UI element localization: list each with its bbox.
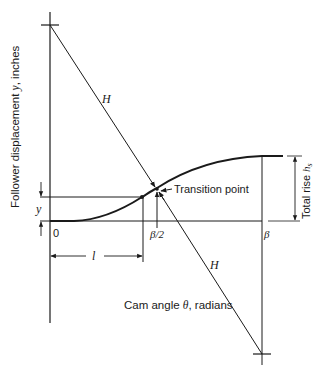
transition-point-dot (155, 187, 159, 191)
y-dim-label: y (35, 202, 42, 216)
h-line-lower-arrow (159, 192, 164, 200)
l-label: l (92, 249, 96, 263)
h-line-lower (159, 192, 262, 354)
h-label-lower: H (209, 258, 220, 272)
total-rise-label: Total rise hs (300, 163, 314, 219)
h-line-upper (50, 25, 155, 187)
origin-label: 0 (53, 227, 59, 239)
beta-label: β (263, 228, 270, 240)
cam-displacement-diagram: Follower displacement y, inches H H Tran… (0, 0, 324, 376)
y-axis-label: Follower displacement y, inches (9, 45, 22, 208)
transition-point-label: Transition point (174, 183, 249, 195)
transition-leader (161, 189, 172, 191)
x-axis-label: Cam angle θ, radians (124, 299, 233, 311)
half-beta-label: β/2 (149, 228, 165, 240)
h-label-upper: H (101, 92, 112, 106)
